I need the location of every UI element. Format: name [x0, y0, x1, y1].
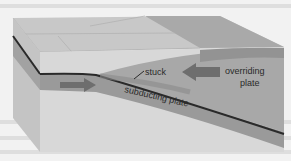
subduction-diagram: stuck overriding plate subducting plate: [0, 0, 291, 161]
overriding-label-line1: overriding: [225, 66, 265, 76]
overriding-label-line2: plate: [240, 78, 260, 88]
stuck-label: stuck: [145, 67, 167, 77]
